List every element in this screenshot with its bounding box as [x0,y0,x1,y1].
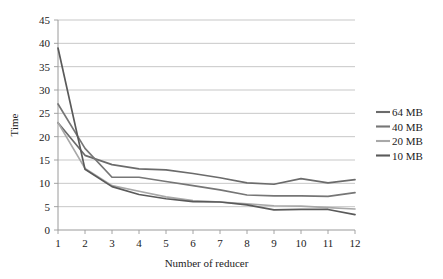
y-tick-label: 5 [45,201,51,213]
y-axis-title: Time [8,113,20,136]
series-line-64-mb [58,123,355,185]
x-tick-label: 2 [82,237,88,249]
x-tick-label: 10 [296,237,308,249]
legend-label-20-mb: 20 MB [392,135,423,147]
x-tick-label: 6 [190,237,196,249]
legend-label-64-mb: 64 MB [392,106,423,118]
legend: 64 MB40 MB20 MB10 MB [376,106,423,162]
y-tick-label: 25 [39,107,51,119]
x-tick-label: 1 [55,237,61,249]
line-chart: 051015202530354045123456789101112Number … [0,0,443,279]
x-tick-label: 12 [350,237,361,249]
x-tick-label: 8 [244,237,250,249]
x-tick-label: 9 [271,237,277,249]
x-tick-label: 7 [217,237,223,249]
y-tick-label: 0 [45,224,51,236]
y-tick-label: 30 [39,84,51,96]
y-tick-label: 20 [39,131,51,143]
legend-label-40-mb: 40 MB [392,121,423,133]
y-tick-label: 10 [39,177,51,189]
series-group [58,48,355,215]
x-ticks: 123456789101112 [55,230,360,249]
y-tick-label: 15 [39,154,51,166]
x-tick-label: 3 [109,237,115,249]
x-tick-label: 4 [136,237,142,249]
y-tick-label: 40 [39,37,51,49]
chart-figure: 051015202530354045123456789101112Number … [0,0,443,279]
x-tick-label: 11 [323,237,334,249]
x-tick-label: 5 [163,237,169,249]
series-line-40-mb [58,104,355,196]
y-tick-label: 35 [39,61,51,73]
legend-label-10-mb: 10 MB [392,150,423,162]
y-gridlines: 051015202530354045 [39,14,355,236]
y-tick-label: 45 [39,14,51,26]
series-line-10-mb [58,48,355,215]
x-axis-title: Number of reducer [165,257,249,269]
